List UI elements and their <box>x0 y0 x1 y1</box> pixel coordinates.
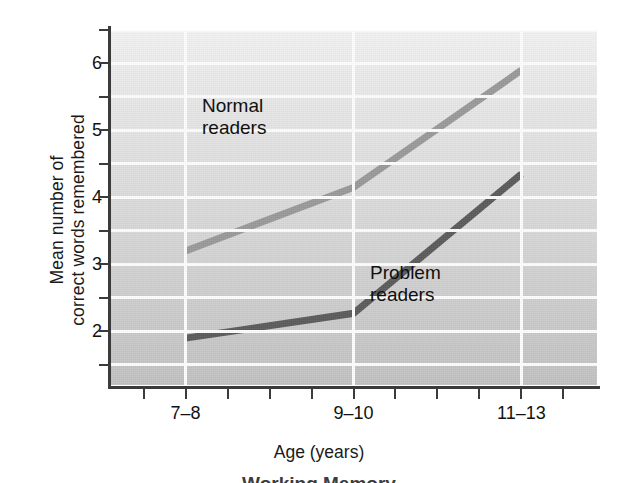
y-axis-tick-mark <box>99 129 110 131</box>
x-axis-tick-mark <box>311 388 313 399</box>
gridline-vertical <box>520 30 523 385</box>
figure-container: Mean number of correct words remembered … <box>0 0 638 483</box>
y-axis-minor-tick-mark <box>99 96 110 98</box>
y-axis-minor-tick-mark <box>99 29 110 31</box>
x-axis-tick-mark <box>394 388 396 399</box>
x-axis-tick-mark <box>269 388 271 399</box>
y-axis-minor-tick-mark <box>99 163 110 165</box>
x-axis-tick-label: 7–8 <box>131 403 241 424</box>
x-axis-tick-label: 9–10 <box>299 403 409 424</box>
x-axis-tick-mark <box>185 388 187 399</box>
y-axis-tick-mark <box>99 330 110 332</box>
x-axis-tick-mark <box>436 388 438 399</box>
caption-sliver: Working Memory <box>0 474 638 483</box>
y-axis-tick-labels: 23456 <box>60 0 102 483</box>
x-axis-title: Age (years) <box>0 442 638 463</box>
y-axis-line <box>108 26 111 389</box>
y-axis-minor-tick-mark <box>99 364 110 366</box>
plot-area <box>110 30 597 385</box>
x-axis-tick-label: 11–13 <box>466 403 576 424</box>
y-axis-minor-tick-mark <box>99 230 110 232</box>
y-axis-tick-mark <box>99 263 110 265</box>
x-axis-tick-mark <box>520 388 522 399</box>
y-axis-tick-mark <box>99 62 110 64</box>
x-axis-tick-mark <box>562 388 564 399</box>
x-axis-tick-mark <box>478 388 480 399</box>
gridline-vertical <box>184 30 187 385</box>
y-axis-tick-mark <box>99 196 110 198</box>
series-label-normal-readers: Normal readers <box>202 95 266 139</box>
gridline-vertical <box>352 30 355 385</box>
y-axis-minor-tick-mark <box>99 297 110 299</box>
series-label-problem-readers: Problem readers <box>370 262 441 306</box>
x-axis-tick-mark <box>353 388 355 399</box>
x-axis-tick-mark <box>143 388 145 399</box>
x-axis-tick-mark <box>227 388 229 399</box>
